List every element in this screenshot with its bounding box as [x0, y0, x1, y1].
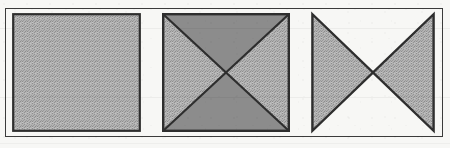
figure-3-svg: [311, 13, 435, 132]
figure-1-plain-square: [12, 13, 141, 132]
figure-1-square-region: [13, 14, 140, 131]
figure-3-left-triangle-region: [312, 14, 373, 131]
scan-crease-bottom: [0, 143, 450, 144]
figure-3-right-triangle-region: [373, 14, 434, 131]
scanned-figure-plate: [0, 0, 450, 148]
figure-2-square-with-diagonals: [162, 13, 290, 132]
figure-2-svg: [162, 13, 290, 132]
figure-1-svg: [12, 13, 141, 132]
figure-3-bowtie: [311, 13, 435, 132]
